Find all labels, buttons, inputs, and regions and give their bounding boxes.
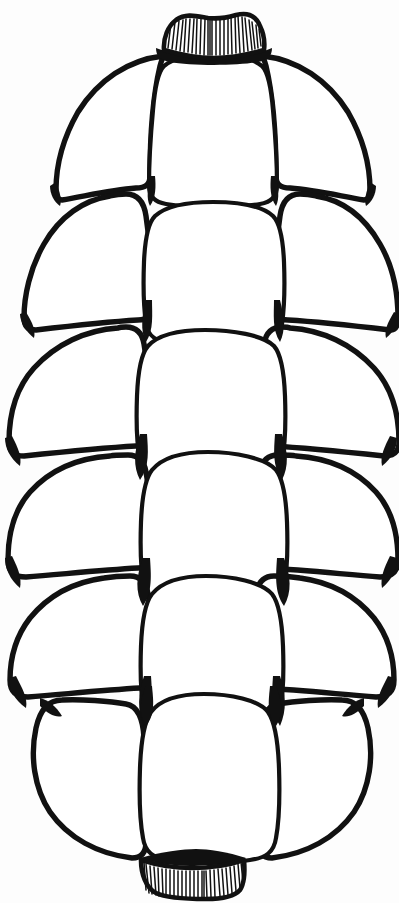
illustration-page: Black ink line drawing of an ovoid pine …: [0, 0, 399, 903]
scale-s-r1-center: [149, 54, 277, 207]
apex-cap: [156, 14, 272, 65]
scale-s-r6-center: [140, 694, 280, 863]
base-cap: [140, 849, 246, 899]
scale-row-2: [24, 194, 398, 346]
pine-cone-figure: [0, 0, 399, 903]
scale-row-6: [33, 694, 370, 863]
scale-s-r2-center: [144, 202, 285, 346]
